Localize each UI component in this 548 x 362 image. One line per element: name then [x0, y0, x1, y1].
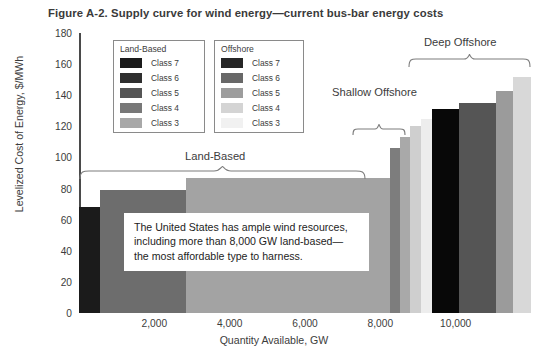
bar-deep-offshore-class-5 [496, 91, 513, 313]
bar-shallow-offshore-class-4 [421, 119, 432, 313]
annotation-deep-offshore: Deep Offshore [424, 36, 497, 48]
legend-item-label: Class 6 [151, 73, 179, 83]
x-tick-label: 8,000 [368, 318, 394, 329]
x-tick-label: 2,000 [142, 318, 168, 329]
x-tick-label: 10,000 [440, 318, 471, 329]
annotation-shallow-offshore: Shallow Offshore [332, 86, 417, 98]
y-axis-label: Levelized Cost of Energy, $/MWh [13, 19, 25, 249]
legend-swatch-icon [221, 88, 243, 98]
callout-line-1: The United States has ample wind resourc… [134, 220, 360, 234]
callout-line-3: the most affordable type to harness. [134, 249, 360, 263]
legend-swatch-icon [120, 58, 142, 68]
legend-offshore-title: Offshore [221, 44, 254, 54]
legend-item: Class 5 [221, 86, 280, 99]
callout-line-2: including more than 8,000 GW land-based— [134, 234, 360, 248]
y-tick-label: 80 [38, 183, 72, 194]
y-tick-label: 120 [38, 121, 72, 132]
bar-shallow-offshore-class-6 [400, 137, 411, 313]
y-tick-label: 0 [38, 308, 72, 319]
legend-swatch-icon [221, 73, 243, 83]
annotation-land-based: Land-Based [185, 150, 245, 162]
y-tick-label: 180 [38, 28, 72, 39]
legend-item-label: Class 7 [252, 58, 280, 68]
y-tick-label: 20 [38, 276, 72, 287]
legend-item-label: Class 3 [252, 118, 280, 128]
legend-item-label: Class 4 [151, 103, 179, 113]
y-tick-label: 60 [38, 214, 72, 225]
y-tick-label: 140 [38, 90, 72, 101]
legend-item: Class 5 [120, 86, 179, 99]
legend-swatch-icon [120, 118, 142, 128]
page-title: Figure A-2. Supply curve for wind energy… [48, 7, 443, 19]
y-axis-ticks: 020406080100120140160180 [38, 33, 72, 313]
legend-land-based: Land-Based Class 7Class 6Class 5Class 4C… [113, 40, 205, 133]
legend-item: Class 3 [221, 117, 280, 130]
legend-item-label: Class 6 [252, 73, 280, 83]
legend-offshore: Offshore Class 7Class 6Class 5Class 4Cla… [214, 40, 304, 133]
legend-swatch-icon [120, 73, 142, 83]
bar-deep-offshore-class-6 [459, 103, 497, 313]
legend-swatch-icon [221, 118, 243, 128]
y-tick-label: 40 [38, 245, 72, 256]
x-tick-label: 6,000 [292, 318, 318, 329]
legend-item-label: Class 5 [252, 88, 280, 98]
callout-box: The United States has ample wind resourc… [124, 213, 369, 271]
bar-shallow-offshore-class-7 [390, 148, 400, 313]
bar-deep-offshore-class-7 [432, 109, 459, 313]
legend-item: Class 4 [120, 102, 179, 115]
legend-item: Class 6 [120, 71, 179, 84]
legend-item: Class 4 [221, 102, 280, 115]
legend-item: Class 7 [120, 56, 179, 69]
legend-item-label: Class 4 [252, 103, 280, 113]
legend-item-label: Class 7 [151, 58, 179, 68]
legend-swatch-icon [120, 88, 142, 98]
y-tick-label: 160 [38, 59, 72, 70]
legend-swatch-icon [120, 103, 142, 113]
bar-shallow-offshore-class-5 [410, 126, 421, 313]
x-axis-label: Quantity Available, GW [0, 334, 548, 346]
legend-item: Class 6 [221, 71, 280, 84]
bar-land-based-class-7 [79, 207, 100, 313]
figure-root: Figure A-2. Supply curve for wind energy… [0, 0, 548, 362]
legend-swatch-icon [221, 103, 243, 113]
x-tick-label: 4,000 [217, 318, 243, 329]
bar-deep-offshore-class-4 [513, 77, 531, 313]
shallow-offshore-brace [352, 124, 406, 136]
land-based-brace [79, 166, 366, 180]
legend-item-label: Class 3 [151, 118, 179, 128]
legend-item: Class 3 [120, 117, 179, 130]
legend-land-based-title: Land-Based [120, 44, 166, 54]
legend-item-label: Class 5 [151, 88, 179, 98]
legend-swatch-icon [221, 58, 243, 68]
y-tick-label: 100 [38, 152, 72, 163]
deep-offshore-brace [408, 54, 531, 68]
legend-item: Class 7 [221, 56, 280, 69]
